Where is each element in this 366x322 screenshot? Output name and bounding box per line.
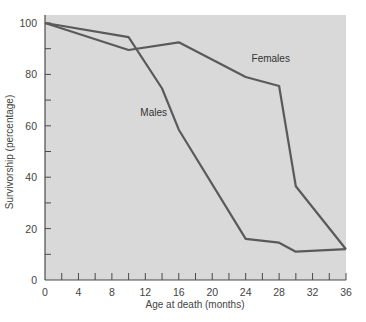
x-tick-label: 0	[42, 286, 48, 298]
x-tick-label: 16	[173, 286, 185, 298]
y-tick-label: 100	[19, 17, 37, 29]
survivorship-chart: 02040608010004812162024283236 FemalesMal…	[0, 0, 366, 322]
x-tick-label: 24	[240, 286, 252, 298]
y-tick-label: 40	[25, 171, 37, 183]
x-tick-label: 32	[307, 286, 319, 298]
y-tick-label: 0	[31, 274, 37, 286]
series-label-females: Females	[252, 53, 290, 64]
x-tick-label: 12	[139, 286, 151, 298]
y-tick-label: 60	[25, 120, 37, 132]
x-tick-label: 20	[206, 286, 218, 298]
x-tick-label: 4	[76, 286, 82, 298]
y-tick-label: 20	[25, 223, 37, 235]
series-label-males: Males	[140, 107, 167, 118]
x-tick-label: 36	[340, 286, 352, 298]
y-tick-label: 80	[25, 68, 37, 80]
plot-background	[45, 15, 346, 280]
x-tick-label: 8	[109, 286, 115, 298]
x-axis-label: Age at death (months)	[146, 299, 245, 310]
x-tick-label: 28	[273, 286, 285, 298]
y-axis-label: Survivorship (percentage)	[4, 95, 15, 210]
